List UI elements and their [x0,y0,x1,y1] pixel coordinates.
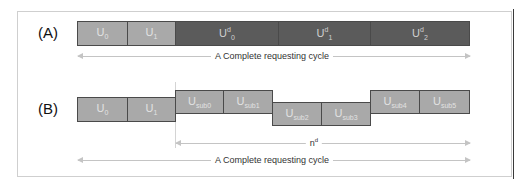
row-a-cell-ud1: Ud1 [278,21,371,46]
row-b-cell-usub5: Usub5 [419,90,470,114]
row-b-nd-label: nd [306,137,322,148]
row-b-label: (B) [38,100,58,117]
row-b-cell-u1: U1 [127,97,176,122]
row-b-cell-usub1: Usub1 [223,90,273,114]
cell-text: U0 [97,102,109,116]
row-b-cell-usub3: Usub3 [321,102,371,126]
cell-text: Ud2 [412,26,428,41]
row-b-cycle-label: A Complete requesting cycle [211,155,333,165]
cell-text: U1 [146,102,158,116]
arrowhead-right-icon [465,53,471,59]
cell-text: Usub1 [236,95,259,109]
cell-text: Usub0 [188,95,211,109]
cell-text: Usub5 [433,95,456,109]
row-b-cell-u0: U0 [77,97,128,122]
arrowhead-right-icon [465,140,471,146]
cell-text: Usub2 [285,107,308,121]
row-b-nd-arrow [176,143,470,144]
arrowhead-left-icon [175,140,181,146]
arrowhead-right-icon [465,157,471,163]
cell-text: U0 [97,26,109,40]
row-a-cell-u0: U0 [77,21,128,46]
cell-text: Usub4 [383,95,406,109]
arrowhead-left-icon [77,157,83,163]
cell-text: U1 [146,26,158,40]
arrowhead-left-icon [77,53,83,59]
frame-right-edge [513,9,514,179]
cell-text: Ud1 [317,26,333,41]
cell-text: Usub3 [334,107,357,121]
row-b-cell-usub0: Usub0 [175,90,224,114]
row-b-cell-usub4: Usub4 [370,90,420,114]
row-a-label: (A) [38,24,58,41]
cell-text: Ud0 [219,26,235,41]
row-a-cell-ud0: Ud0 [175,21,279,46]
row-a-cycle-label: A Complete requesting cycle [211,51,333,61]
row-a-cell-ud2: Ud2 [370,21,470,46]
row-b-cell-usub2: Usub2 [272,102,322,126]
row-a-cell-u1: U1 [127,21,176,46]
